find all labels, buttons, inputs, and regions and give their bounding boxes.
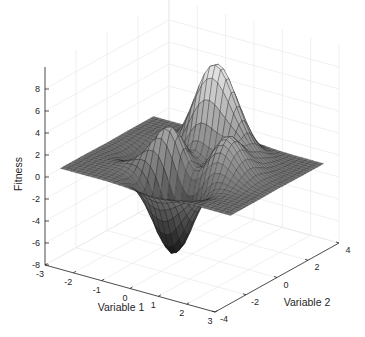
z-tick-label: 0	[35, 172, 40, 182]
y-tick-label: -2	[251, 297, 259, 307]
x-tick-label: -3	[36, 269, 44, 279]
y-tick-label: 2	[314, 262, 319, 272]
y-tick-label: -4	[220, 314, 228, 324]
surface-plot-canvas: -8-6-4-202468-3-2-10123-4-2024 Fitness V…	[0, 0, 365, 337]
x-tick-label: -2	[64, 277, 72, 287]
x-tick-label: 2	[179, 308, 184, 318]
z-tick-label: 8	[35, 84, 40, 94]
y-axis-label: Variable 2	[284, 296, 331, 308]
x-tick-label: 3	[207, 316, 212, 326]
z-tick-label: -6	[32, 238, 40, 248]
x-axis-label: Variable 1	[98, 301, 145, 313]
z-axis-label: Fitness	[12, 157, 24, 191]
z-tick-label: 6	[35, 106, 40, 116]
x-tick-label: 1	[151, 300, 156, 310]
y-tick-label: 0	[283, 280, 288, 290]
z-tick-label: 2	[35, 150, 40, 160]
z-tick-label: -4	[32, 216, 40, 226]
surface-plot-figure: -8-6-4-202468-3-2-10123-4-2024 Fitness V…	[0, 0, 365, 337]
x-tick-label: -1	[93, 285, 101, 295]
z-tick-label: 4	[35, 128, 40, 138]
z-tick-label: -2	[32, 194, 40, 204]
y-tick-label: 4	[345, 245, 350, 255]
